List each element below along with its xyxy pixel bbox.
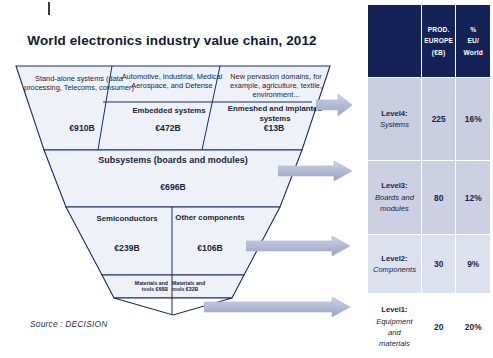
- row-level1-level: Level1:: [381, 305, 407, 314]
- arrow-level3: [278, 160, 364, 184]
- header-pct-line1: %: [456, 24, 490, 36]
- row-level1-descriptor-l3: materials: [379, 339, 410, 348]
- bottom-caption-strip: [52, 349, 352, 358]
- row-level4-level: Level4:: [381, 109, 407, 118]
- header-prod-line2: EUROPE: [422, 35, 456, 47]
- row-level2-label: Level2: Components: [368, 235, 421, 293]
- funnel-shape: [12, 62, 334, 327]
- arrow-level2: [246, 235, 362, 259]
- slide-canvas: World electronics industry value chain, …: [0, 0, 493, 358]
- header-prod-line3: (€B): [422, 47, 456, 59]
- table-row-level1: Level1: Equipment and materials 20 20%: [368, 294, 490, 358]
- row-level4-descriptor-l1: Systems: [380, 120, 409, 129]
- funnel-band-level4: [16, 66, 330, 150]
- row-level3-descriptor-l1: Boards and: [375, 193, 414, 202]
- row-level4-pct: 16%: [456, 78, 490, 160]
- page-title: World electronics industry value chain, …: [12, 33, 332, 48]
- row-level3-descriptor-l2: modules: [380, 204, 409, 213]
- row-level2-prod-europe: 30: [422, 235, 456, 293]
- row-level4-prod-europe: 225: [422, 78, 456, 160]
- table-row-level2: Level2: Components 30 9%: [368, 235, 490, 293]
- table-row-level4: Level4: Systems 225 16%: [368, 78, 490, 160]
- row-level3-level: Level3:: [381, 181, 407, 190]
- row-level3-label: Level3: Boards and modules: [368, 161, 421, 234]
- row-level3-pct: 12%: [456, 161, 490, 234]
- row-level2-level: Level2:: [381, 254, 407, 263]
- row-level1-prod-europe: 20: [422, 294, 456, 358]
- funnel-band-level3: [44, 150, 302, 207]
- funnel-band-level1: [102, 275, 244, 298]
- row-level1-pct: 20%: [456, 294, 490, 358]
- arrow-level4: [316, 92, 368, 118]
- row-level2-descriptor-l1: Components: [373, 265, 416, 274]
- top-tick-mark: [48, 2, 50, 15]
- levels-table-panel: PROD. EUROPE (€B) % EU/ World Level4: Sy…: [367, 4, 491, 355]
- row-level1-descriptor-l2: and: [388, 328, 401, 337]
- table-header-pct-eu-world: % EU/ World: [456, 5, 490, 77]
- table-row-level3: Level3: Boards and modules 80 12%: [368, 161, 490, 234]
- value-chain-funnel: Stand-alone systems (data processing, Te…: [12, 62, 334, 327]
- header-prod-line1: PROD.: [422, 24, 456, 36]
- table-header-row: PROD. EUROPE (€B) % EU/ World: [368, 5, 490, 77]
- header-pct-line3: World: [456, 47, 490, 59]
- row-level1-descriptor-l1: Equipment: [376, 317, 412, 326]
- source-note: Source : DECISION: [30, 319, 107, 329]
- row-level3-prod-europe: 80: [422, 161, 456, 234]
- row-level2-pct: 9%: [456, 235, 490, 293]
- table-header-prod-europe: PROD. EUROPE (€B): [422, 5, 456, 77]
- arrow-level1: [204, 296, 362, 320]
- table-header-blank: [368, 5, 421, 77]
- row-level1-label: Level1: Equipment and materials: [368, 294, 421, 358]
- row-level4-label: Level4: Systems: [368, 78, 421, 160]
- header-pct-line2: EU/: [456, 35, 490, 47]
- levels-table: PROD. EUROPE (€B) % EU/ World Level4: Sy…: [367, 4, 491, 358]
